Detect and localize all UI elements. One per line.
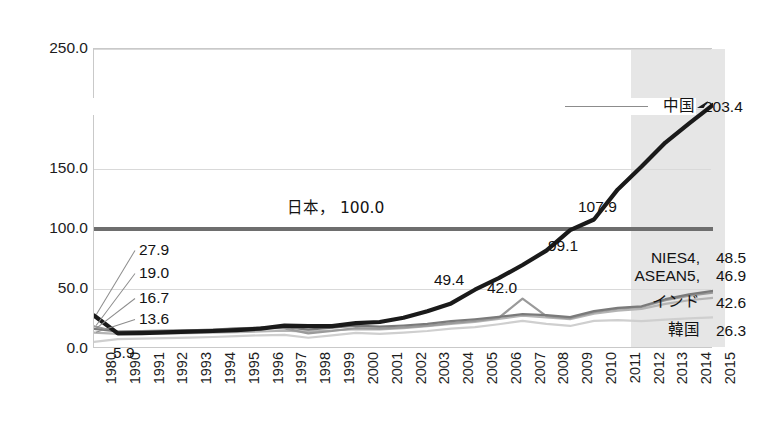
x-tick-label: 2006 (504, 352, 519, 384)
x-tick-label: 1991 (147, 352, 162, 384)
korea-label-value: 26.3 (716, 322, 746, 339)
chart-screenshot: 0.050.0100.0150.0200.0250.0 198019901991… (0, 0, 780, 421)
korea-label-name: 韓国 (0, 322, 700, 339)
x-tick-label: 1999 (337, 352, 352, 384)
india-label-value: 42.6 (716, 294, 746, 311)
x-tick-label: 2003 (432, 352, 447, 384)
y-tick-label: 250.0 (2, 40, 88, 56)
x-axis: 1980199019911992199319941995199619971998… (93, 352, 712, 421)
x-tick-label: 2010 (599, 352, 614, 384)
x-tick-label: 1997 (289, 352, 304, 384)
x-tick-label: 2011 (623, 352, 638, 383)
x-tick-label: 2013 (670, 352, 685, 384)
x-tick-label: 2009 (575, 352, 590, 384)
x-tick-label: 2012 (647, 352, 662, 384)
x-tick-label: 2014 (694, 352, 709, 384)
callout-value: 5.9 (113, 345, 135, 361)
japan-inline-label: 日本， 100.0 (287, 200, 384, 216)
x-tick-label: 1993 (194, 352, 209, 384)
x-tick-label: 2007 (528, 352, 543, 384)
y-tick-label: 100.0 (2, 220, 88, 236)
x-tick-label: 1998 (313, 352, 328, 384)
x-tick-label: 1994 (218, 352, 233, 384)
x-tick-label: 2008 (551, 352, 566, 384)
x-tick-label: 1995 (242, 352, 257, 384)
x-tick-label: 1992 (170, 352, 185, 384)
y-axis: 0.050.0100.0150.0200.0250.0 (0, 0, 88, 421)
nies4-label-value: 48.5 (716, 249, 746, 266)
nies4-label-name: NIES4, (0, 249, 700, 266)
x-tick-label: 2005 (480, 352, 495, 384)
x-tick-label: 2000 (361, 352, 376, 384)
china-2010-label: 107.9 (578, 199, 617, 215)
leader-line (565, 106, 648, 107)
x-tick-label: 1996 (266, 352, 281, 384)
china-label-value: 203.4 (704, 98, 743, 115)
asean5-label-value: 46.9 (716, 267, 746, 284)
asean5-label-name: ASEAN5, (0, 267, 700, 284)
x-tick-label: 2002 (409, 352, 424, 384)
y-tick-label: 0.0 (2, 340, 88, 356)
x-tick-label: 2015 (718, 352, 733, 384)
x-tick-label: 1980 (99, 352, 114, 384)
india-label-name: インド (0, 294, 700, 311)
y-tick-label: 150.0 (2, 160, 88, 176)
x-tick-label: 2004 (456, 352, 471, 384)
x-tick-label: 2001 (385, 352, 400, 384)
